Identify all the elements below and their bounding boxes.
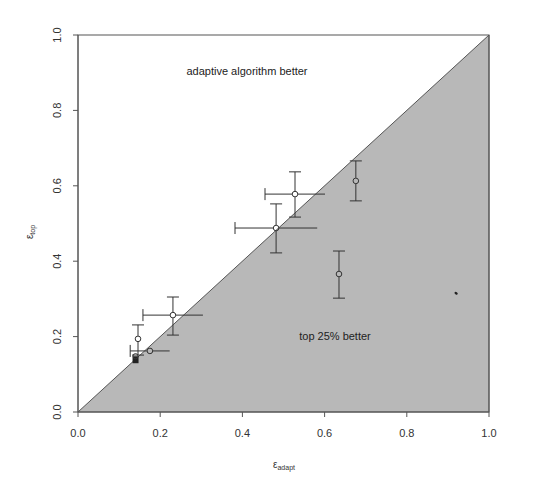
y-axis: 0.00.20.40.60.81.0 — [51, 27, 78, 419]
upper-region-label: adaptive algorithm better — [186, 65, 307, 77]
x-tick-label: 1.0 — [481, 427, 496, 439]
x-axis-label: εadapt — [273, 459, 295, 472]
x-tick-label: 0.4 — [235, 427, 250, 439]
scatter-chart: 0.00.20.40.60.81.0 0.00.20.40.60.81.0 ad… — [0, 0, 534, 493]
y-tick-label: 0.4 — [51, 254, 63, 269]
y-axis-label: εtop — [24, 225, 37, 239]
x-tick-label: 0.2 — [153, 427, 168, 439]
x-tick-label: 0.8 — [399, 427, 414, 439]
y-tick-label: 0.2 — [51, 329, 63, 344]
y-tick-label: 0.6 — [51, 178, 63, 193]
x-tick-label: 0.0 — [70, 427, 85, 439]
y-tick-label: 0.8 — [51, 103, 63, 118]
x-tick-label: 0.6 — [317, 427, 332, 439]
lower-region-label: top 25% better — [299, 330, 371, 342]
y-tick-label: 1.0 — [51, 27, 63, 42]
y-tick-label: 0.0 — [51, 404, 63, 419]
x-axis: 0.00.20.40.60.81.0 — [70, 412, 496, 439]
